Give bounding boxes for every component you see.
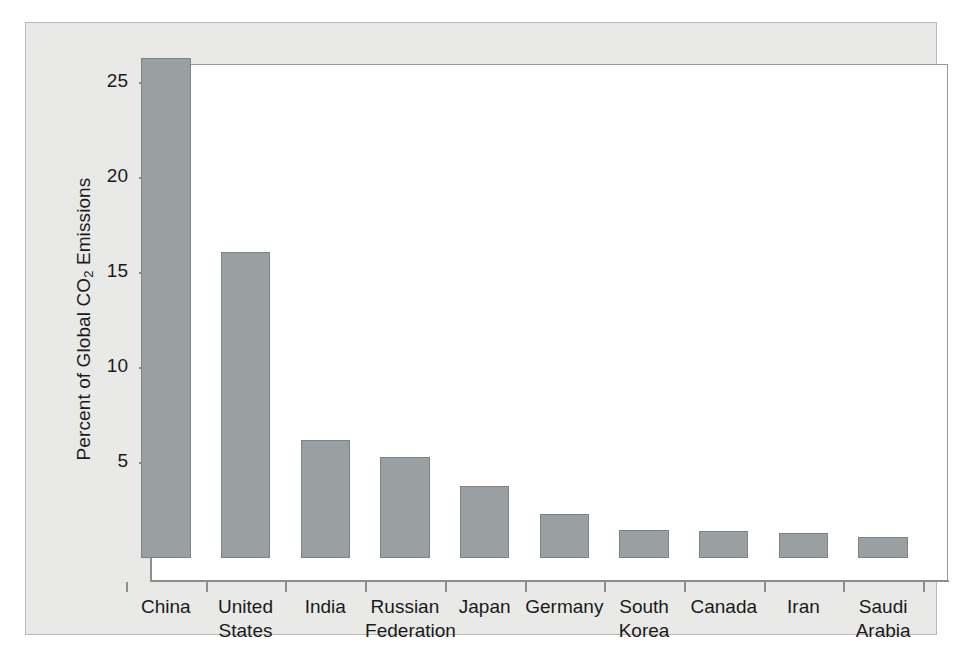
x-axis-tick-mark bbox=[764, 582, 766, 592]
bar bbox=[460, 486, 509, 558]
x-axis-label-line1: South bbox=[619, 596, 669, 617]
x-axis-label: Germany bbox=[525, 595, 605, 619]
x-axis-label-line1: Japan bbox=[459, 596, 511, 617]
bar bbox=[221, 252, 270, 558]
x-axis-tick-mark bbox=[445, 582, 447, 592]
x-axis-label-line1: Russian bbox=[371, 596, 440, 617]
y-axis-tick-label: 10 bbox=[107, 355, 128, 377]
y-axis-tick-label: 25 bbox=[107, 70, 128, 92]
y-axis-tick-label: 5 bbox=[117, 450, 128, 472]
bar bbox=[858, 537, 907, 558]
x-axis-label-line1: Saudi bbox=[859, 596, 908, 617]
x-axis-tick-mark bbox=[285, 582, 287, 592]
x-axis-label-line2: States bbox=[206, 619, 286, 643]
x-axis-tick-mark bbox=[923, 582, 925, 592]
x-axis-label-line2: Korea bbox=[604, 619, 684, 643]
x-axis-label-line1: Canada bbox=[690, 596, 757, 617]
x-axis-label: China bbox=[126, 595, 206, 619]
x-axis-label: UnitedStates bbox=[206, 595, 286, 643]
x-axis-tick-mark bbox=[525, 582, 527, 592]
bar bbox=[619, 530, 668, 559]
y-axis-title-after: Emissions bbox=[73, 178, 94, 271]
x-axis-label-line1: India bbox=[305, 596, 346, 617]
x-axis-label: Canada bbox=[684, 595, 764, 619]
x-axis-tick-mark bbox=[365, 582, 367, 592]
y-axis-title-subscript: 2 bbox=[81, 270, 96, 277]
chart-figure: Percent of Global CO2 Emissions 51015202… bbox=[0, 0, 966, 657]
x-axis-label-line1: Iran bbox=[787, 596, 820, 617]
y-axis-tick-label: 15 bbox=[107, 260, 128, 282]
x-axis-tick-mark bbox=[684, 582, 686, 592]
bar bbox=[301, 440, 350, 558]
x-axis-label: RussianFederation bbox=[365, 595, 445, 643]
x-axis-label: SaudiArabia bbox=[843, 595, 923, 643]
bar bbox=[141, 58, 190, 558]
x-axis-tick-mark bbox=[604, 582, 606, 592]
figure-panel: Percent of Global CO2 Emissions 51015202… bbox=[25, 22, 937, 635]
x-axis-label: SouthKorea bbox=[604, 595, 684, 643]
x-axis-tick-mark bbox=[206, 582, 208, 592]
x-axis-label-line1: Germany bbox=[525, 596, 603, 617]
x-axis-label-line1: United bbox=[218, 596, 273, 617]
x-axis-label-line2: Federation bbox=[365, 619, 445, 643]
x-axis-tick-mark bbox=[126, 582, 128, 592]
bar bbox=[699, 531, 748, 558]
x-axis-label-line2: Arabia bbox=[843, 619, 923, 643]
y-axis-title: Percent of Global CO2 Emissions bbox=[73, 109, 95, 529]
x-axis-label: India bbox=[285, 595, 365, 619]
x-axis-line bbox=[150, 580, 949, 582]
bar bbox=[779, 533, 828, 558]
plot-area bbox=[151, 64, 948, 581]
x-axis-label: Japan bbox=[445, 595, 525, 619]
x-axis-label-line1: China bbox=[141, 596, 191, 617]
bar bbox=[380, 457, 429, 558]
y-axis-title-before: Percent of Global CO bbox=[73, 278, 94, 461]
x-axis-tick-mark bbox=[843, 582, 845, 592]
y-axis-tick-label: 20 bbox=[107, 165, 128, 187]
bar bbox=[540, 514, 589, 558]
x-axis-label: Iran bbox=[764, 595, 844, 619]
